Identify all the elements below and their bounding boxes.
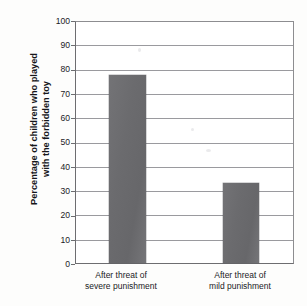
x-category-label-severe-line-1: After threat of [73, 270, 169, 281]
y-axis-tick-labels: 100 90 80 70 60 50 40 30 20 10 0 [38, 0, 70, 306]
x-category-label-mild-line-2: mild punishment [192, 281, 288, 292]
gridline-80 [76, 70, 293, 71]
page-speckle [138, 48, 141, 52]
y-tick-label-30: 30 [40, 187, 70, 196]
y-tick-label-10: 10 [40, 236, 70, 245]
y-tick-mark-0 [71, 264, 75, 265]
bar-mild-punishment [223, 183, 260, 263]
x-category-label-severe-punishment: After threat of severe punishment [73, 270, 169, 293]
y-tick-label-100: 100 [40, 17, 70, 26]
y-tick-label-20: 20 [40, 211, 70, 220]
bar-chart-figure: Percentage of children who played with t… [0, 0, 307, 306]
x-category-label-severe-line-2: severe punishment [73, 281, 169, 292]
x-category-label-mild-line-1: After threat of [192, 270, 288, 281]
plot-area [75, 21, 294, 264]
bar-severe-punishment [109, 75, 147, 263]
y-tick-label-40: 40 [40, 163, 70, 172]
y-tick-label-80: 80 [40, 65, 70, 74]
page-speckle [206, 149, 211, 152]
y-tick-label-60: 60 [40, 114, 70, 123]
y-tick-label-0: 0 [40, 260, 70, 269]
page-speckle [191, 128, 194, 131]
y-tick-label-50: 50 [40, 138, 70, 147]
x-category-label-mild-punishment: After threat of mild punishment [192, 270, 288, 293]
y-tick-label-90: 90 [40, 41, 70, 50]
y-tick-label-70: 70 [40, 90, 70, 99]
gridline-90 [76, 45, 293, 46]
